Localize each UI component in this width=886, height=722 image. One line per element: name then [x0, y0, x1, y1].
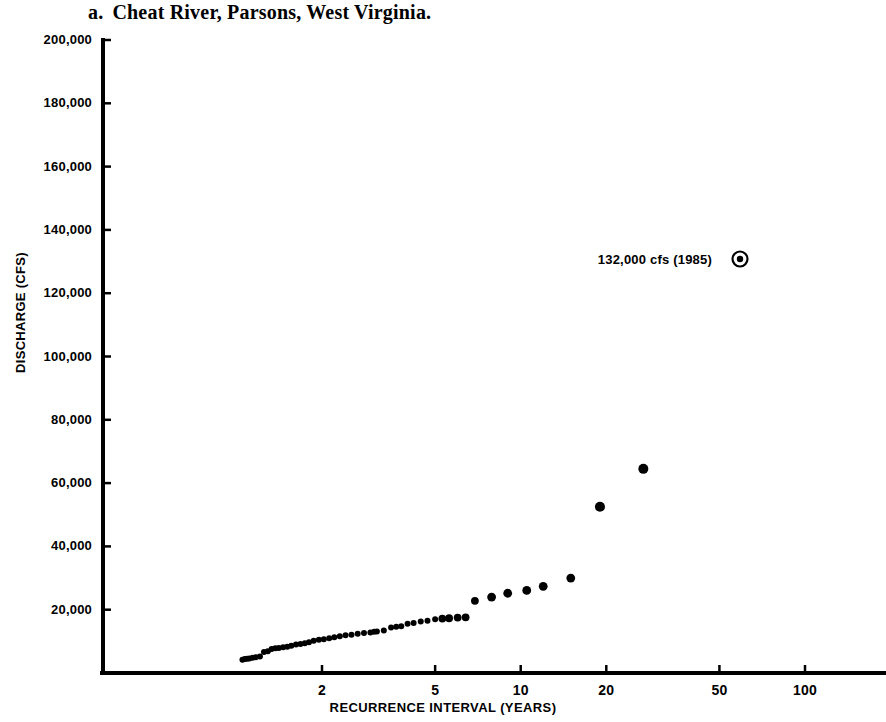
data-point — [411, 620, 417, 626]
data-point — [374, 629, 380, 635]
data-point — [432, 616, 438, 622]
data-point — [405, 621, 411, 627]
y-tick-label: 160,000 — [0, 160, 92, 173]
y-tick-label: 120,000 — [0, 286, 92, 299]
data-point — [311, 638, 317, 644]
y-tick-label: 20,000 — [0, 603, 92, 616]
data-point — [454, 614, 462, 622]
data-point — [445, 614, 453, 622]
y-tick-label: 60,000 — [0, 476, 92, 489]
data-point — [381, 628, 387, 634]
data-point — [462, 613, 470, 621]
scatter-plot — [0, 0, 886, 722]
x-tick-label: 20 — [576, 683, 636, 697]
x-tick-label: 2 — [292, 683, 352, 697]
y-tick-label: 100,000 — [0, 350, 92, 363]
data-point — [388, 624, 394, 630]
y-tick-label: 40,000 — [0, 539, 92, 552]
data-point — [331, 634, 337, 640]
data-point — [503, 589, 512, 598]
x-tick-label: 5 — [405, 683, 465, 697]
x-tick-label: 10 — [491, 683, 551, 697]
y-tick-label: 140,000 — [0, 223, 92, 236]
data-point — [355, 631, 361, 637]
y-tick-label: 80,000 — [0, 413, 92, 426]
annotation-marker-bullseye — [733, 252, 748, 267]
data-point — [522, 586, 531, 595]
x-tick-label: 50 — [689, 683, 749, 697]
data-point — [487, 593, 496, 602]
data-point — [566, 574, 575, 583]
x-tick-label: 100 — [775, 683, 835, 697]
figure-container: a.Cheat River, Parsons, West Virginia. D… — [0, 0, 886, 722]
data-point — [349, 632, 355, 638]
data-point — [257, 654, 263, 660]
data-point — [424, 618, 430, 624]
annotation-marker-dot — [737, 256, 743, 262]
data-point — [438, 615, 446, 623]
data-point — [398, 623, 404, 629]
data-point — [337, 633, 343, 639]
y-tick-label: 200,000 — [0, 33, 92, 46]
data-point — [321, 636, 327, 642]
data-point — [418, 618, 424, 624]
y-tick-label: 180,000 — [0, 96, 92, 109]
data-point — [539, 582, 548, 591]
data-point — [595, 502, 605, 512]
data-point — [471, 597, 479, 605]
data-point — [361, 630, 367, 636]
data-point — [638, 464, 648, 474]
data-point — [343, 632, 349, 638]
data-point — [326, 635, 332, 641]
